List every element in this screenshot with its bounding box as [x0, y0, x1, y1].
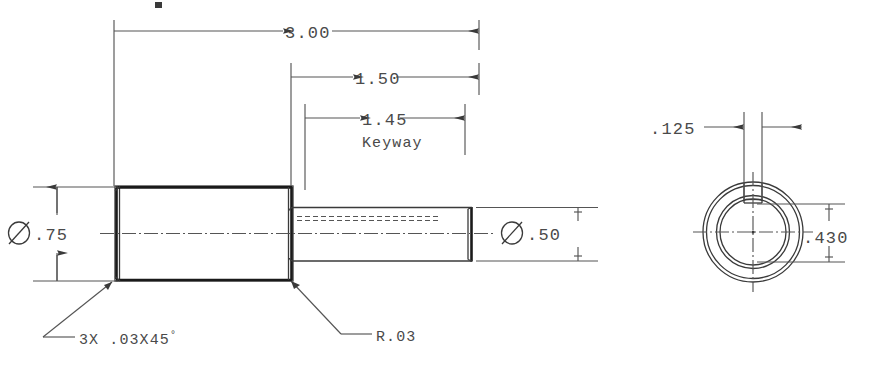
keyway-label: Keyway: [362, 135, 423, 152]
dimension-small-diameter: .50: [476, 208, 598, 262]
dimension-keyway-width: .125: [650, 112, 802, 200]
callout-fillet-radius: R.03: [291, 281, 416, 346]
fillet-radius-note: R.03: [376, 329, 416, 346]
diameter-symbol-large: [9, 222, 30, 244]
drawing-canvas: 3.00 1.50 1.45 Keyway .75: [0, 0, 893, 369]
callout-chamfer: 3X .03X45°: [43, 282, 177, 349]
dimension-keyway-depth: .430: [757, 204, 849, 262]
small-diameter-value: .50: [527, 226, 561, 245]
large-diameter-value: .75: [34, 226, 68, 245]
end-section-view: .125 .430: [650, 112, 849, 292]
chamfer-note: 3X .03X45°: [79, 330, 177, 349]
trimmed-text-artifact: [155, 2, 162, 8]
overall-length-value: 3.00: [285, 24, 331, 43]
diameter-symbol-small: [502, 222, 523, 244]
keyway-length-value: 1.45: [362, 111, 408, 130]
side-elevation-view: [100, 186, 495, 281]
keyway-depth-value: .430: [803, 229, 849, 248]
keyway-width-value: .125: [650, 120, 696, 139]
engineering-drawing-svg: 3.00 1.50 1.45 Keyway .75: [0, 0, 893, 369]
small-section-length-value: 1.50: [355, 70, 401, 89]
dimension-overall-length: 3.00: [114, 20, 479, 186]
keyway-hidden-lines: [297, 217, 440, 221]
small-diameter-body: [290, 207, 473, 262]
dimension-keyway-length: 1.45 Keyway: [305, 104, 465, 190]
section-center-mark: [751, 230, 754, 233]
